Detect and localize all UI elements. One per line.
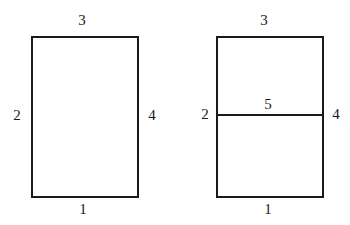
divided-rectangle-divider-edge-label: 5 bbox=[256, 97, 280, 112]
divided-rectangle-right-edge bbox=[322, 36, 324, 198]
diagram-canvas: 3 2 4 1 3 2 5 4 1 bbox=[0, 0, 350, 225]
divided-rectangle-left-edge bbox=[216, 36, 218, 198]
divided-rectangle: 3 2 5 4 1 bbox=[0, 0, 350, 225]
divided-rectangle-top-edge-label: 3 bbox=[252, 13, 276, 28]
divided-rectangle-horizontal-divider-edge bbox=[216, 114, 324, 116]
divided-rectangle-bottom-edge bbox=[216, 196, 324, 198]
divided-rectangle-top-edge bbox=[216, 36, 324, 38]
divided-rectangle-left-edge-label: 2 bbox=[196, 107, 214, 122]
divided-rectangle-right-edge-label: 4 bbox=[327, 107, 345, 122]
divided-rectangle-bottom-edge-label: 1 bbox=[256, 202, 280, 217]
